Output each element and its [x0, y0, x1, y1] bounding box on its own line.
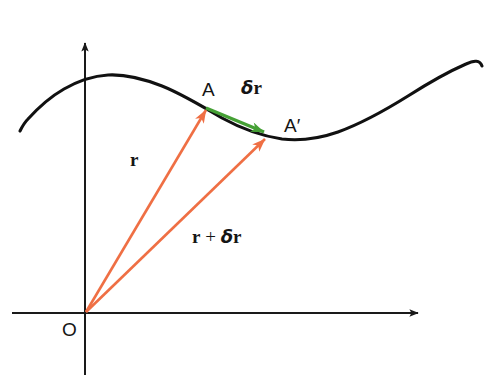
vector-r-label: r [130, 150, 138, 169]
origin-label: O [62, 320, 77, 339]
vector-delta-r-label: δr [241, 78, 262, 97]
point-a-label: A [202, 80, 215, 99]
sum-r-vector-letter: r [233, 226, 241, 247]
vector-delta-r-arrow [206, 108, 264, 132]
sum-plus-operator: + [200, 226, 220, 247]
sum-delta-symbol: δ [221, 226, 233, 247]
point-a-prime-label: A′ [284, 116, 300, 135]
delta-r-vector-letter: r [253, 77, 261, 98]
vector-r-arrow [86, 110, 206, 312]
vector-delta-r-shaft [206, 108, 264, 132]
delta-symbol: δ [241, 77, 253, 98]
vector-diagram-figure: O A A′ r δr r + δr [0, 0, 488, 381]
vector-r-shaft [86, 110, 206, 312]
vector-r-plus-delta-r-label: r + δr [192, 227, 241, 246]
